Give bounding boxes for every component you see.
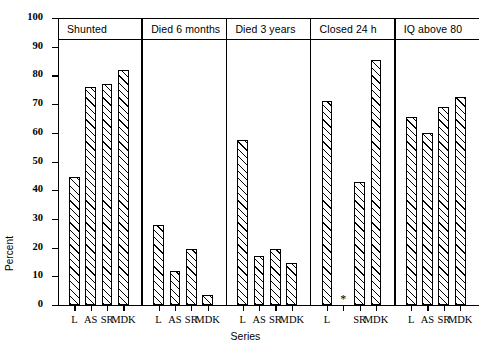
panel-separator xyxy=(394,18,396,305)
x-tick xyxy=(444,305,445,311)
bar xyxy=(153,225,164,305)
panel-separator xyxy=(226,18,228,305)
x-tick xyxy=(327,305,328,311)
y-tick-label: 0 xyxy=(13,298,43,309)
y-tick-label: 30 xyxy=(13,212,43,223)
x-tick xyxy=(123,305,124,311)
x-tick-label: MDK xyxy=(280,314,305,325)
x-tick-label: MDK xyxy=(364,314,389,325)
x-tick xyxy=(159,305,160,311)
x-tick-label: AS xyxy=(252,314,265,325)
panel-title: Shunted xyxy=(58,23,107,35)
y-tick: 90 xyxy=(52,47,58,48)
panel-title-box: Shunted xyxy=(58,18,142,40)
y-axis-line xyxy=(58,18,59,305)
panel-title: IQ above 80 xyxy=(395,23,462,35)
y-tick-label: 80 xyxy=(13,68,43,79)
panel-title-box: Died 6 months xyxy=(142,18,226,40)
x-tick xyxy=(107,305,108,311)
y-tick-label: 10 xyxy=(13,269,43,280)
x-tick-label: AS xyxy=(421,314,434,325)
x-tick-label: L xyxy=(155,314,161,325)
bar xyxy=(406,117,417,305)
bar xyxy=(254,256,265,305)
y-tick: 60 xyxy=(52,133,58,134)
panel-title-box: IQ above 80 xyxy=(395,18,479,40)
bar xyxy=(455,97,466,305)
x-tick xyxy=(208,305,209,311)
x-tick xyxy=(74,305,75,311)
bar xyxy=(354,182,365,305)
y-tick: 0 xyxy=(52,305,58,306)
x-tick-label: L xyxy=(240,314,246,325)
y-tick-label: 50 xyxy=(13,155,43,166)
x-tick-label: L xyxy=(408,314,414,325)
x-tick xyxy=(460,305,461,311)
bar xyxy=(322,101,333,305)
y-tick-label: 40 xyxy=(13,183,43,194)
bar-chart-figure: Percent 0102030405060708090100 ShuntedDi… xyxy=(0,0,491,354)
x-tick-label: L xyxy=(71,314,77,325)
y-tick: 10 xyxy=(52,276,58,277)
panel-title-box: Died 3 years xyxy=(226,18,310,40)
y-tick-label: 20 xyxy=(13,241,43,252)
x-tick-label: AS xyxy=(168,314,181,325)
x-tick xyxy=(275,305,276,311)
x-tick-label: MDK xyxy=(111,314,136,325)
x-tick xyxy=(411,305,412,311)
missing-data-marker: * xyxy=(338,294,349,304)
bar xyxy=(422,133,433,305)
y-tick: 20 xyxy=(52,248,58,249)
y-tick-label: 90 xyxy=(13,40,43,51)
panel-title: Died 3 years xyxy=(226,23,295,35)
bar xyxy=(85,87,96,305)
x-tick-label: AS xyxy=(84,314,97,325)
x-tick xyxy=(343,305,344,311)
bar xyxy=(202,295,213,305)
x-tick xyxy=(175,305,176,311)
bar xyxy=(270,249,281,305)
x-tick xyxy=(376,305,377,311)
x-tick xyxy=(427,305,428,311)
x-tick xyxy=(259,305,260,311)
panel-separator xyxy=(141,18,143,305)
bar xyxy=(102,84,113,305)
x-tick xyxy=(191,305,192,311)
bar xyxy=(186,249,197,305)
x-tick xyxy=(360,305,361,311)
y-tick: 80 xyxy=(52,75,58,76)
bar xyxy=(371,60,382,305)
x-tick xyxy=(292,305,293,311)
x-tick-label: MDK xyxy=(448,314,473,325)
x-tick-label: L xyxy=(324,314,330,325)
x-axis-label: Series xyxy=(0,330,491,342)
y-tick: 50 xyxy=(52,162,58,163)
x-tick xyxy=(243,305,244,311)
bar xyxy=(237,140,248,305)
bar xyxy=(118,70,129,305)
y-tick: 30 xyxy=(52,219,58,220)
bar xyxy=(69,177,80,305)
y-tick-label: 70 xyxy=(13,97,43,108)
y-tick-label: 100 xyxy=(13,11,43,22)
y-tick: 70 xyxy=(52,104,58,105)
panel-separator xyxy=(310,18,312,305)
x-tick-label: MDK xyxy=(195,314,220,325)
x-tick xyxy=(91,305,92,311)
bar xyxy=(286,263,297,305)
y-tick-label: 60 xyxy=(13,126,43,137)
plot-area: 0102030405060708090100 ShuntedDied 6 mon… xyxy=(58,18,479,305)
panel-title-box: Closed 24 h xyxy=(311,18,395,40)
x-axis-line xyxy=(58,305,479,306)
y-tick: 40 xyxy=(52,190,58,191)
bar xyxy=(170,271,181,305)
panel-title: Died 6 months xyxy=(142,23,220,35)
bar xyxy=(438,107,449,305)
panel-title: Closed 24 h xyxy=(311,23,377,35)
